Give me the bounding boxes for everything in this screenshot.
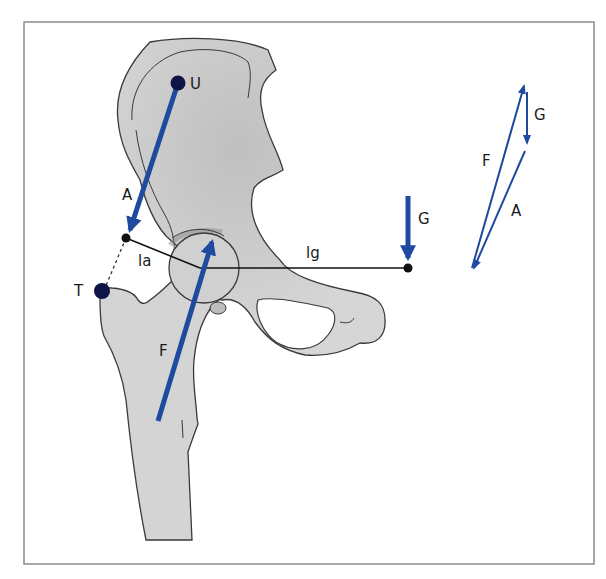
- vector-f: [472, 86, 524, 268]
- label-a: A: [122, 186, 133, 204]
- point-u: [171, 76, 186, 91]
- triangle-label-a: A: [511, 202, 522, 220]
- triangle-label-f: F: [482, 152, 491, 170]
- label-g: G: [418, 210, 430, 228]
- triangle-label-g: G: [534, 106, 546, 124]
- label-t: T: [73, 282, 84, 300]
- lever-point-a: [122, 234, 131, 243]
- label-lg: lg: [306, 244, 320, 262]
- point-t: [94, 283, 110, 299]
- label-u: U: [190, 75, 201, 93]
- label-f: F: [159, 342, 168, 360]
- trochanter-connector: [105, 238, 126, 288]
- hip-force-diagram: U T A la lg F G G F A: [0, 0, 606, 579]
- label-la: la: [138, 252, 151, 270]
- vector-triangle: G F A: [472, 86, 546, 268]
- lever-point-g: [404, 264, 413, 273]
